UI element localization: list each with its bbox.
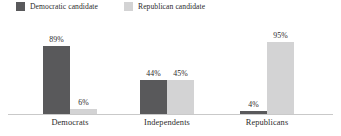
bar-independents-democratic [140,80,167,114]
bar-value-democrats-democratic: 89% [37,36,77,44]
bar-slot-independents-democratic: 44% [140,80,167,114]
category-label-republicans: Republicans [197,119,337,127]
bar-slot-democrats-republican: 6% [70,109,97,114]
legend-item-republican: Republican candidate [124,2,205,11]
bar-slot-independents-republican: 45% [167,80,194,114]
legend-label-democratic: Democratic candidate [30,3,98,11]
bar-value-independents-republican: 45% [161,70,201,78]
bar-value-republicans-republican: 95% [261,32,301,40]
x-axis-baseline [8,114,333,115]
bar-value-democrats-republican: 6% [64,99,104,107]
bar-pair-independents: 44% 45% [140,80,194,114]
bar-independents-republican [167,80,194,114]
bar-republicans-democratic [240,111,267,114]
grouped-bar-chart: Democratic candidate Republican candidat… [0,0,341,136]
bar-slot-republicans-republican: 95% [267,42,294,114]
bar-democrats-republican [70,109,97,114]
legend-swatch-democratic [16,2,25,11]
chart-legend: Democratic candidate Republican candidat… [16,2,205,11]
legend-item-democratic: Democratic candidate [16,2,98,11]
bar-pair-republicans: 4% 95% [240,42,294,114]
plot-area: 89% 6% 44% 45% [0,24,341,115]
bar-pair-democrats: 89% 6% [43,46,97,114]
bar-republicans-republican [267,42,294,114]
bar-slot-republicans-democratic: 4% [240,111,267,114]
legend-swatch-republican [124,2,133,11]
legend-label-republican: Republican candidate [138,3,205,11]
